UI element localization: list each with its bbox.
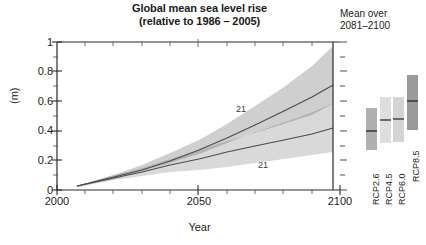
plot-canvas <box>0 0 426 245</box>
sea-level-rise-figure: Global mean sea level rise (relative to … <box>0 0 426 245</box>
x-minor-ticks-top <box>85 39 312 47</box>
inset-bar-rcp85 <box>407 75 418 130</box>
inset-bar-rcp26 <box>366 108 377 150</box>
inset-axis-ticks <box>340 42 347 190</box>
